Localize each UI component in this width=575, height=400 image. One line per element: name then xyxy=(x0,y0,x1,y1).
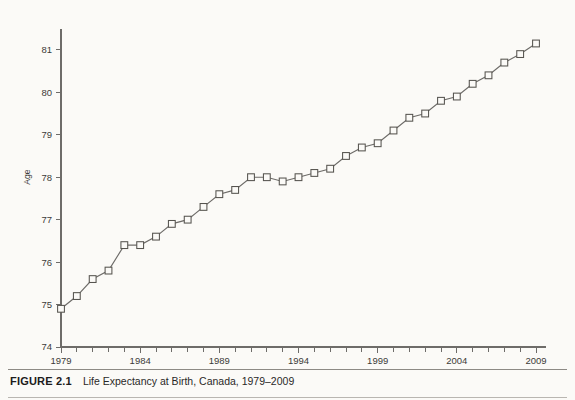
data-point-marker xyxy=(358,144,365,151)
y-tick-label: 74 xyxy=(41,341,52,352)
x-tick-label: 2009 xyxy=(525,355,546,366)
y-tick-label: 80 xyxy=(41,87,52,98)
data-point-marker xyxy=(295,174,302,181)
data-point-marker xyxy=(485,72,492,79)
y-axis-title: Age xyxy=(22,169,32,184)
data-point-marker xyxy=(422,110,429,117)
data-point-marker xyxy=(453,93,460,100)
data-series xyxy=(58,40,540,312)
caption-row: FIGURE 2.1 Life Expectancy at Birth, Can… xyxy=(10,375,294,387)
x-tick-label: 1979 xyxy=(50,355,71,366)
line-chart-svg: 7475767778798081 19791984198919941999200… xyxy=(0,0,575,366)
data-point-marker xyxy=(105,267,112,274)
data-point-marker xyxy=(343,153,350,160)
data-point-marker xyxy=(438,97,445,104)
x-tick-label: 1994 xyxy=(288,355,309,366)
data-point-marker xyxy=(216,191,223,198)
data-point-marker xyxy=(153,233,160,240)
data-point-marker xyxy=(73,293,80,300)
data-point-marker xyxy=(390,127,397,134)
data-point-marker xyxy=(533,40,540,47)
data-point-marker xyxy=(137,242,144,249)
figure-number-label: FIGURE 2.1 xyxy=(10,375,72,387)
y-axis: 7475767778798081 xyxy=(41,29,61,353)
x-tick-label: 2004 xyxy=(446,355,467,366)
y-tick-label: 78 xyxy=(41,172,52,183)
y-tick-label: 81 xyxy=(41,44,52,55)
data-point-marker xyxy=(232,187,239,194)
y-tick-label: 75 xyxy=(41,299,52,310)
data-point-marker xyxy=(469,80,476,87)
figure-container: 7475767778798081 19791984198919941999200… xyxy=(0,0,575,400)
caption-rule-top xyxy=(8,369,567,370)
data-point-marker xyxy=(121,242,128,249)
data-point-marker xyxy=(501,59,508,66)
x-axis: 1979198419891994199920042009 xyxy=(50,347,546,366)
data-point-marker xyxy=(263,174,270,181)
data-point-marker xyxy=(374,140,381,147)
data-point-marker xyxy=(248,174,255,181)
data-point-marker xyxy=(406,114,413,121)
data-point-marker xyxy=(327,165,334,172)
y-tick-label: 79 xyxy=(41,129,52,140)
data-point-marker xyxy=(279,178,286,185)
figure-title-label: Life Expectancy at Birth, Canada, 1979–2… xyxy=(83,375,294,387)
data-point-marker xyxy=(517,51,524,58)
data-point-marker xyxy=(89,276,96,283)
data-point-marker xyxy=(311,170,318,177)
data-point-marker xyxy=(200,204,207,211)
x-tick-label: 1989 xyxy=(209,355,230,366)
figure-caption-block: FIGURE 2.1 Life Expectancy at Birth, Can… xyxy=(0,366,575,400)
chart-plot-area: 7475767778798081 19791984198919941999200… xyxy=(0,0,575,366)
y-tick-label: 77 xyxy=(41,214,52,225)
data-point-marker xyxy=(184,216,191,223)
data-point-marker xyxy=(58,305,65,312)
x-tick-label: 1999 xyxy=(367,355,388,366)
data-point-marker xyxy=(168,220,175,227)
x-tick-label: 1984 xyxy=(130,355,151,366)
y-tick-label: 76 xyxy=(41,257,52,268)
caption-rule-bottom xyxy=(8,397,567,398)
